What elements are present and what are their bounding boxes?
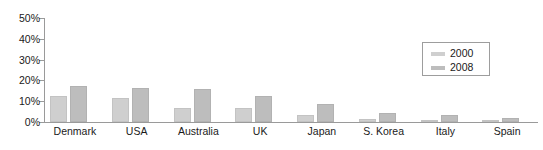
bar-uk-2008 [255, 96, 272, 122]
bar-japan-2008 [317, 104, 334, 122]
x-axis-line [44, 122, 538, 123]
bar-australia-2008 [194, 89, 211, 122]
x-label-uk: UK [229, 126, 291, 138]
bar-group [106, 18, 168, 122]
legend-swatch-icon-2000 [431, 52, 445, 56]
x-label-s-korea: S. Korea [353, 126, 415, 138]
legend-label-2008: 2008 [450, 62, 473, 73]
x-label-spain: Spain [476, 126, 538, 138]
x-label-italy: Italy [415, 126, 477, 138]
bar-chart: 0%10%20%30%40%50% DenmarkUSAAustraliaUKJ… [0, 0, 543, 150]
bar-spain-2000 [482, 120, 499, 122]
x-label-japan: Japan [291, 126, 353, 138]
bar-italy-2008 [441, 115, 458, 122]
y-tick-label: 10% [19, 96, 40, 107]
y-tick-label: 40% [19, 34, 40, 45]
legend-swatch-icon-2008 [431, 66, 445, 70]
bar-spain-2008 [502, 118, 519, 122]
x-label-australia: Australia [168, 126, 230, 138]
y-tick-label: 0% [25, 117, 40, 128]
bar-group [229, 18, 291, 122]
bar-group [353, 18, 415, 122]
bar-usa-2008 [132, 88, 149, 122]
bar-s-korea-2000 [359, 119, 376, 122]
bar-group [168, 18, 230, 122]
x-axis-labels: DenmarkUSAAustraliaUKJapanS. KoreaItalyS… [44, 126, 538, 148]
bar-denmark-2000 [50, 96, 67, 122]
bar-australia-2000 [174, 108, 191, 122]
bar-group [291, 18, 353, 122]
bar-japan-2000 [297, 115, 314, 122]
y-tick-label: 50% [19, 13, 40, 24]
legend-item-2008: 2008 [431, 61, 489, 74]
x-label-denmark: Denmark [44, 126, 106, 138]
bar-usa-2000 [112, 98, 129, 122]
bar-denmark-2008 [70, 86, 87, 122]
legend-label-2000: 2000 [450, 48, 473, 59]
bar-group [44, 18, 106, 122]
y-tick-label: 20% [19, 75, 40, 86]
bar-italy-2000 [421, 120, 438, 122]
legend-item-2000: 2000 [431, 47, 489, 60]
bar-uk-2000 [235, 108, 252, 122]
y-tick-label: 30% [19, 54, 40, 65]
x-label-usa: USA [106, 126, 168, 138]
chart-legend: 2000 2008 [422, 42, 490, 76]
bar-s-korea-2008 [379, 113, 396, 122]
